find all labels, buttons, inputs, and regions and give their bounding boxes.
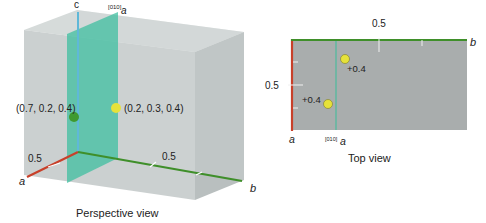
- a-tick-label: 0.5: [28, 153, 42, 164]
- atom-yellow: [111, 103, 121, 113]
- top-view: 0.5 b 0.5 +0.4 +0.4 a [010] a Top view: [265, 18, 476, 164]
- top-view-atom-2: [324, 100, 333, 109]
- top-view-point-label-2: +0.4: [302, 94, 321, 105]
- glide-plane-superscript: [010]: [108, 4, 122, 10]
- b-axis-label: b: [250, 182, 256, 194]
- top-view-caption: Top view: [348, 152, 391, 164]
- top-view-glide-superscript: [010]: [325, 136, 338, 142]
- top-view-glide-label: a: [340, 135, 346, 147]
- top-view-a-tick-label: 0.5: [265, 80, 279, 91]
- top-view-a-axis-label: a: [289, 133, 295, 145]
- perspective-view-caption: Perspective view: [76, 207, 159, 219]
- b-tick-label: 0.5: [162, 151, 176, 162]
- c-axis-label: c: [74, 0, 79, 10]
- point-label-yellow: (0.2, 0.3, 0.4): [124, 103, 183, 114]
- top-view-point-label-1: +0.4: [347, 63, 366, 74]
- perspective-view: c [010] a (0.7, 0.2, 0.4) (0.2, 0.3, 0.4…: [16, 0, 256, 219]
- point-label-green: (0.7, 0.2, 0.4): [16, 103, 75, 114]
- a-axis-label: a: [19, 175, 25, 187]
- top-view-b-axis-label: b: [470, 36, 476, 48]
- top-view-b-tick-label: 0.5: [372, 18, 386, 29]
- glide-plane-label: a: [121, 5, 127, 16]
- figure: c [010] a (0.7, 0.2, 0.4) (0.2, 0.3, 0.4…: [0, 0, 486, 223]
- top-view-cell: [291, 39, 467, 130]
